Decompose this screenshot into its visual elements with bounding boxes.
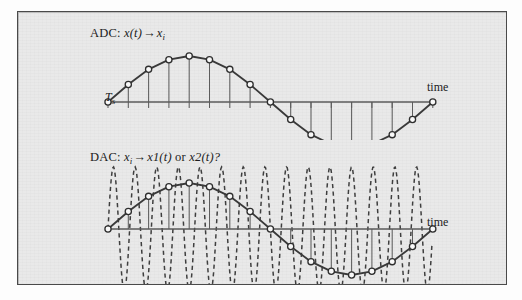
dac-label-arrow: →	[132, 150, 147, 164]
panel-adc: ADC: x(t)→xi Ts time	[18, 12, 506, 140]
dac-label-out2-paren: (t)?	[201, 150, 220, 164]
adc-panel-label: ADC: x(t)→xi	[90, 26, 165, 42]
figure-root: ADC: x(t)→xi Ts time DAC: xi→x1(t) or x2…	[0, 0, 522, 300]
dac-time-axis-caption: time	[427, 215, 448, 230]
dac-label-out1: x1	[147, 150, 159, 164]
adc-time-axis-caption: time	[427, 80, 448, 95]
sampling-period-label: Ts	[105, 90, 115, 106]
adc-signal-curve	[108, 56, 433, 140]
sampling-period-sub: s	[112, 96, 116, 106]
dac-label-prefix: DAC:	[90, 150, 124, 164]
figure-frame: ADC: x(t)→xi Ts time DAC: xi→x1(t) or x2…	[17, 11, 507, 285]
adc-label-arrow: →	[142, 26, 157, 40]
dac-label-out1-paren: (t)	[159, 150, 171, 164]
adc-label-prefix: ADC:	[90, 26, 124, 40]
dac-label-out2: x2	[189, 150, 201, 164]
adc-label-input-paren: (t)	[130, 26, 142, 40]
adc-stems	[128, 56, 412, 140]
panel-dac: DAC: xi→x1(t) or x2(t)? time	[18, 140, 506, 284]
dac-label-conj: or	[172, 150, 189, 164]
adc-label-output-sub: i	[163, 32, 166, 42]
sampling-period-symbol: T	[105, 90, 112, 104]
dac-panel-label: DAC: xi→x1(t) or x2(t)?	[90, 150, 220, 166]
